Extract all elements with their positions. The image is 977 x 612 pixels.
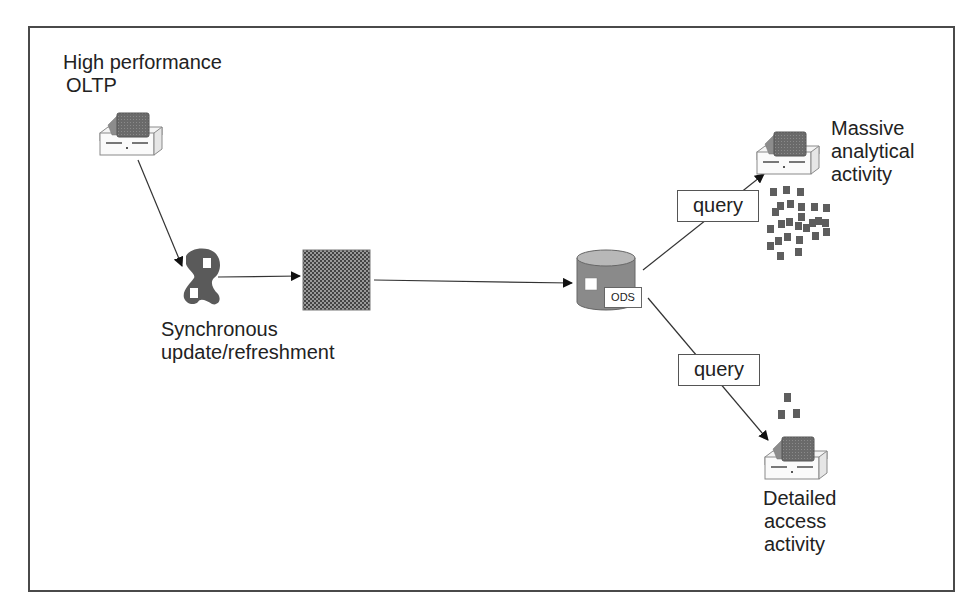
oltp-label-line2: OLTP <box>66 74 117 96</box>
checkered-box-icon <box>303 250 370 310</box>
sync-label-line1: Synchronous <box>161 318 278 340</box>
query-label-detailed: query <box>678 354 760 386</box>
edge-oltp-to-sync <box>138 160 182 266</box>
detailed-label-line3: activity <box>764 533 825 555</box>
ods-label: ODS <box>604 287 642 308</box>
edge-ods-to-analytical <box>643 174 764 270</box>
data-cubes-few-icon <box>778 393 800 419</box>
analytical-label-line1: Massive <box>831 117 904 139</box>
analytical-label-line3: activity <box>831 163 892 185</box>
oltp-computer-icon <box>100 113 162 155</box>
edge-sync-to-staging <box>218 276 300 277</box>
data-cubes-cluster-icon <box>767 186 830 260</box>
transform-shape-icon <box>184 249 220 305</box>
oltp-label-line1: High performance <box>63 51 222 73</box>
detailed-label-line1: Detailed <box>763 487 836 509</box>
analytical-label-line2: analytical <box>831 140 914 162</box>
sync-label-line2: update/refreshment <box>161 341 334 363</box>
diagram-canvas <box>0 0 977 612</box>
detailed-label-line2: access <box>764 510 826 532</box>
detailed-computer-icon <box>765 437 827 479</box>
analytical-computer-icon <box>757 132 819 174</box>
query-label-analytical: query <box>677 190 759 222</box>
edge-staging-to-ods <box>374 280 572 283</box>
